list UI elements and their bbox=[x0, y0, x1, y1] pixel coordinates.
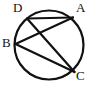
chord-d-a bbox=[27, 18, 73, 19]
vertex-label-c: C bbox=[76, 69, 85, 82]
vertex-label-a: A bbox=[76, 1, 85, 14]
vertex-label-d: D bbox=[13, 1, 22, 14]
geometry-figure: D A B C bbox=[0, 0, 96, 86]
chord-d-c bbox=[27, 19, 75, 73]
vertex-label-b: B bbox=[2, 36, 11, 49]
